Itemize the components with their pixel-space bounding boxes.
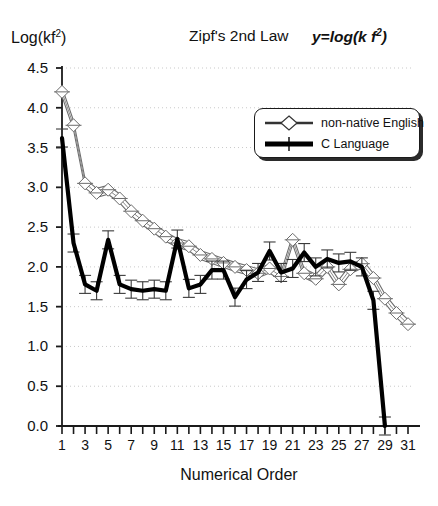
plot-canvas [0,0,438,506]
y-axis-tick: 4.5 [4,59,48,76]
x-axis-tick: 5 [97,437,119,453]
legend-item-c-language: C Language [263,134,389,154]
y-axis-tick: 3.0 [4,178,48,195]
x-axis-tick: 25 [328,437,350,453]
x-axis-tick: 27 [351,437,373,453]
y-axis-tick: 2.0 [4,258,48,275]
x-axis-tick: 7 [120,437,142,453]
y-axis-tick: 2.5 [4,218,48,235]
thick-line-icon [263,135,315,153]
legend-item-non-native-english: non-native English [263,113,424,133]
diamond-line-icon [263,114,315,132]
legend-label: non-native English [321,116,424,130]
x-axis-tick: 17 [236,437,258,453]
chart-legend: non-native English C Language [254,108,420,158]
x-axis-tick: 29 [374,437,396,453]
x-axis-tick: 11 [166,437,188,453]
y-axis-tick: 1.5 [4,298,48,315]
y-axis-tick: 0.5 [4,377,48,394]
y-axis-tick: 3.5 [4,139,48,156]
x-axis-tick: 15 [212,437,234,453]
x-axis-tick: 13 [189,437,211,453]
x-axis-label-text: Numerical Order [140,466,297,483]
x-axis-tick: 3 [74,437,96,453]
x-axis-tick: 23 [305,437,327,453]
x-axis-label: Numerical Order [0,466,438,484]
legend-label: C Language [321,137,389,151]
y-axis-tick: 4.0 [4,99,48,116]
x-axis-tick: 19 [259,437,281,453]
x-axis-tick: 31 [397,437,419,453]
y-axis-tick: 0.0 [4,417,48,434]
y-axis-tick: 1.0 [4,337,48,354]
x-axis-tick: 1 [51,437,73,453]
x-axis-tick: 9 [143,437,165,453]
x-axis-tick: 21 [282,437,304,453]
zipf-second-law-chart: Log(kf2) Zipf's 2nd Law y=log(k f2) 0.00… [0,0,438,506]
